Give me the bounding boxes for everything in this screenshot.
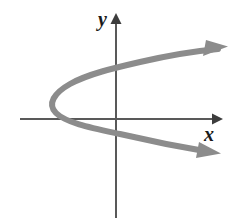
- parabola-curve: [52, 49, 218, 152]
- x-axis-label: x: [204, 124, 214, 144]
- y-axis-label: y: [98, 9, 107, 29]
- graph-canvas: [0, 0, 243, 218]
- curve-upper-arrow-icon: [203, 40, 228, 56]
- parabola-figure: y x: [0, 0, 243, 218]
- y-axis-arrow-icon: [111, 13, 122, 24]
